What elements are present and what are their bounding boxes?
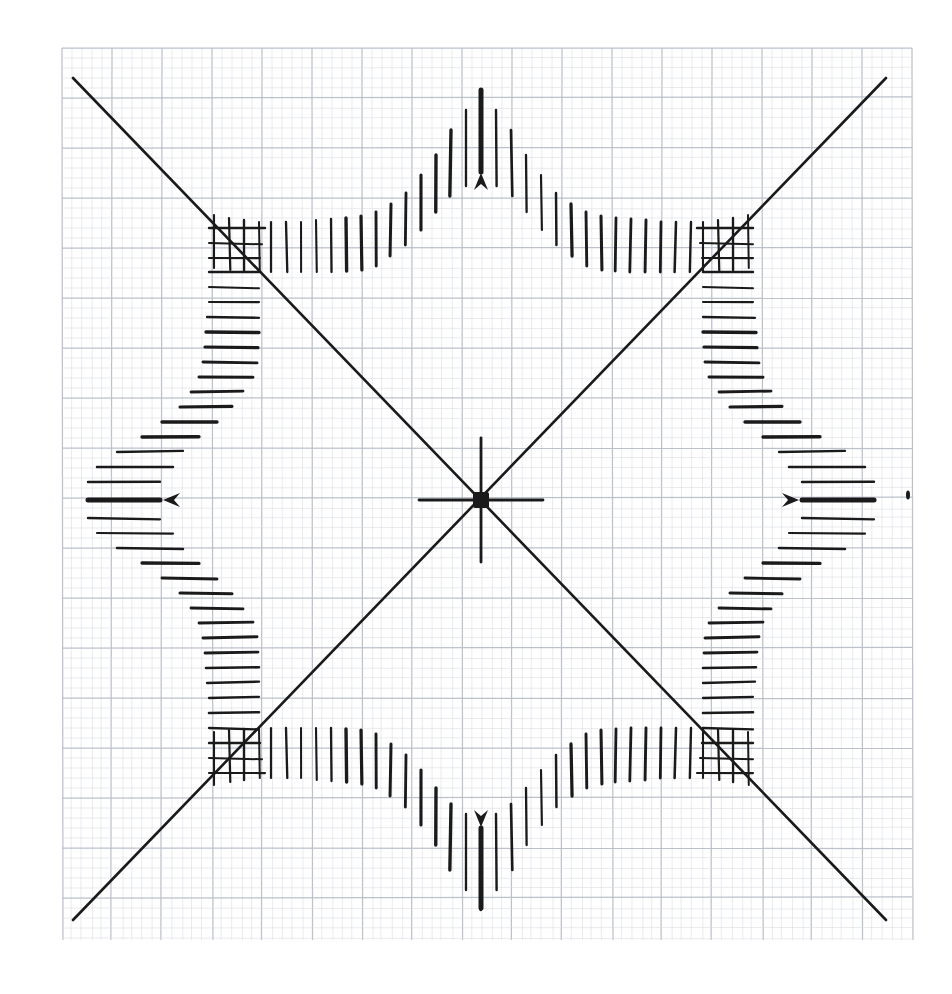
tick-mark-vertical	[645, 220, 646, 272]
tick-mark-vertical	[511, 804, 512, 870]
tick-mark-horizontal	[703, 332, 756, 333]
tick-mark-horizontal	[703, 697, 753, 698]
tick-mark-vertical	[571, 744, 572, 796]
tick-mark-horizontal	[203, 362, 257, 363]
tick-mark-horizontal	[97, 533, 173, 534]
grid-line-vertical	[362, 48, 363, 940]
tick-mark-horizontal	[209, 287, 259, 288]
tick-mark-horizontal	[703, 317, 755, 318]
tick-mark-horizontal	[802, 518, 874, 519]
tick-mark-horizontal	[709, 622, 763, 623]
tick-mark-horizontal	[719, 608, 771, 609]
tick-mark-vertical	[405, 193, 406, 245]
grid-line-vertical	[462, 48, 463, 940]
tick-mark-horizontal	[207, 317, 259, 318]
tick-mark-vertical	[690, 728, 691, 778]
tick-mark-horizontal	[162, 578, 217, 579]
tick-mark-horizontal	[205, 652, 258, 653]
grid-line-vertical	[582, 48, 583, 940]
tick-mark-vertical	[675, 728, 676, 778]
tick-mark-vertical	[286, 222, 287, 272]
tick-mark-vertical	[450, 130, 451, 196]
tick-mark-horizontal	[705, 362, 759, 363]
tick-mark-horizontal	[789, 533, 865, 534]
tick-mark-vertical	[748, 215, 749, 268]
grid-line-horizontal	[62, 337, 912, 338]
tick-mark-horizontal	[209, 712, 259, 713]
tick-mark-horizontal	[180, 593, 232, 594]
tick-mark-horizontal	[705, 637, 759, 638]
tick-mark-horizontal	[703, 712, 753, 713]
origin-square	[473, 492, 489, 508]
tick-mark-horizontal	[704, 347, 757, 348]
tick-mark-vertical	[405, 755, 406, 807]
tick-mark-vertical	[541, 770, 542, 825]
grid-line-vertical	[191, 48, 192, 940]
tick-mark-vertical	[361, 216, 362, 270]
tick-mark-vertical	[645, 728, 646, 780]
rosette-diagram	[0, 0, 952, 994]
tick-mark-vertical	[690, 222, 691, 272]
tick-mark-horizontal	[703, 682, 755, 683]
tick-mark-vertical	[630, 728, 631, 781]
tick-mark-vertical	[331, 219, 332, 272]
grid-line-vertical	[312, 48, 313, 940]
tick-mark-horizontal	[703, 287, 753, 288]
grid-line-vertical	[661, 48, 662, 940]
tick-mark-vertical	[718, 729, 719, 780]
stray-ink-speck	[906, 491, 910, 500]
tick-mark-horizontal	[205, 347, 258, 348]
tick-mark-vertical	[526, 155, 527, 212]
tick-mark-vertical	[541, 175, 542, 230]
tick-mark-vertical	[660, 222, 661, 272]
tick-mark-vertical	[496, 110, 497, 186]
tick-mark-vertical	[660, 728, 661, 778]
grid-line-horizontal	[62, 247, 912, 248]
grid-line-horizontal	[62, 818, 912, 819]
tick-mark-horizontal	[199, 622, 253, 623]
tick-mark-horizontal	[209, 728, 259, 729]
grid-line-horizontal	[62, 698, 912, 699]
tick-mark-vertical	[286, 728, 287, 778]
tick-mark-vertical	[601, 216, 602, 270]
tick-mark-horizontal	[180, 406, 232, 407]
tick-mark-vertical	[316, 728, 317, 780]
tick-mark-horizontal	[117, 548, 183, 549]
tick-mark-horizontal	[779, 451, 845, 452]
tick-mark-vertical	[229, 218, 230, 270]
tick-mark-horizontal	[700, 758, 753, 759]
grid-line-vertical	[792, 48, 793, 940]
tick-mark-horizontal	[719, 391, 771, 392]
grid-line-horizontal	[62, 448, 912, 449]
tick-mark-vertical	[586, 734, 587, 788]
tick-mark-horizontal	[191, 391, 243, 392]
tick-mark-vertical	[630, 219, 631, 272]
grid-line-vertical	[711, 48, 712, 940]
tick-mark-vertical	[615, 729, 616, 782]
tick-mark-vertical	[511, 130, 512, 196]
tick-mark-vertical	[390, 744, 391, 796]
ink-speck	[906, 491, 910, 500]
tick-mark-vertical	[675, 222, 676, 272]
tick-mark-horizontal	[745, 578, 800, 579]
grid-line-vertical	[561, 48, 562, 940]
tick-mark-vertical	[346, 218, 347, 271]
tick-mark-horizontal	[206, 332, 259, 333]
tick-mark-vertical	[496, 814, 497, 890]
tick-mark-vertical	[361, 730, 362, 784]
diagram-page	[0, 0, 952, 994]
grid-line-horizontal	[62, 647, 912, 648]
tick-mark-horizontal	[703, 667, 756, 668]
grid-line-vertical	[862, 48, 863, 940]
tick-mark-vertical	[259, 222, 260, 272]
grid-line-vertical	[811, 48, 812, 940]
tick-mark-horizontal	[207, 682, 259, 683]
tick-mark-horizontal	[209, 243, 262, 244]
tick-mark-vertical	[615, 218, 616, 271]
grid-line-vertical	[772, 48, 773, 940]
tick-mark-vertical	[229, 730, 230, 782]
tick-mark-vertical	[586, 212, 587, 266]
tick-mark-vertical	[259, 728, 260, 778]
tick-mark-horizontal	[206, 667, 259, 668]
tick-mark-vertical	[450, 804, 451, 870]
